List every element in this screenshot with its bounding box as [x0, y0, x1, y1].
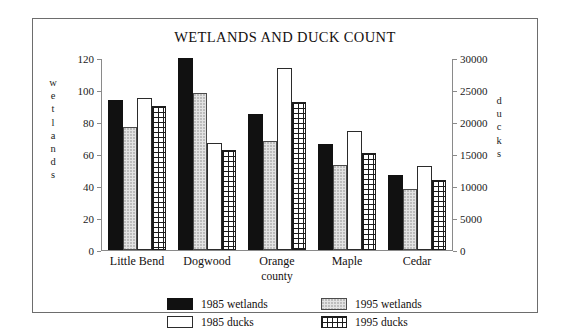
- axis-tick: [97, 219, 101, 220]
- bar: [152, 106, 167, 250]
- bar: [292, 102, 307, 250]
- axis-tick: [97, 251, 101, 252]
- axis-tick-label: 120: [78, 54, 95, 65]
- axis-caption-letter: l: [45, 116, 61, 129]
- legend-swatch: [167, 298, 193, 310]
- bar: [222, 150, 237, 250]
- axis-tick: [453, 155, 457, 156]
- axis-caption-letter: d: [45, 155, 61, 168]
- axis-tick-label: 0: [460, 246, 466, 257]
- category-label: Dogwood: [183, 254, 230, 269]
- axis-tick-label: 10000: [460, 182, 488, 193]
- category-label: Orange: [259, 254, 294, 269]
- axis-tick-label: 100: [78, 86, 95, 97]
- axis-tick: [97, 155, 101, 156]
- axis-tick: [453, 187, 457, 188]
- right-axis-caption: ducks: [491, 94, 507, 160]
- baseline-axis: [101, 250, 453, 251]
- axis-tick: [453, 123, 457, 124]
- axis-tick-label: 15000: [460, 150, 488, 161]
- bar: [403, 189, 418, 250]
- bar-group: [178, 59, 236, 250]
- axis-caption-letter: a: [45, 129, 61, 142]
- bar: [137, 98, 152, 250]
- legend-swatch: [321, 298, 347, 310]
- bar: [178, 58, 193, 250]
- axis-tick-label: 80: [83, 118, 94, 129]
- axis-tick: [453, 91, 457, 92]
- bar-group: [248, 59, 306, 250]
- axis-caption-letter: s: [491, 147, 507, 160]
- axis-tick-label: 20000: [460, 118, 488, 129]
- axis-tick-label: 25000: [460, 86, 488, 97]
- axis-tick-label: 60: [83, 150, 94, 161]
- axis-tick: [97, 59, 101, 60]
- axis-tick: [97, 187, 101, 188]
- bar: [333, 165, 348, 250]
- bar: [432, 180, 447, 250]
- bar: [207, 143, 222, 250]
- bar: [347, 131, 362, 250]
- bar: [277, 68, 292, 250]
- bar: [123, 127, 138, 250]
- axis-caption-letter: k: [491, 134, 507, 147]
- legend-label: 1995 wetlands: [355, 298, 467, 310]
- axis-tick: [97, 123, 101, 124]
- bar-group: [108, 59, 166, 250]
- bar-groups: [102, 59, 452, 250]
- axis-caption-letter: s: [45, 168, 61, 181]
- axis-tick-label: 40: [83, 182, 94, 193]
- bar-group: [388, 59, 446, 250]
- axis-tick-label: 30000: [460, 54, 488, 65]
- axis-caption-letter: d: [491, 94, 507, 107]
- left-axis-caption: wetlands: [45, 76, 61, 182]
- axis-tick: [453, 251, 457, 252]
- bar: [318, 144, 333, 250]
- axis-tick: [97, 91, 101, 92]
- chart-frame: WETLANDS AND DUCK COUNT wetlands ducks 0…: [32, 18, 538, 313]
- axis-tick: [453, 219, 457, 220]
- axis-caption-letter: u: [491, 107, 507, 120]
- bar: [263, 141, 278, 250]
- axis-caption-letter: t: [45, 102, 61, 115]
- legend-swatch: [321, 316, 347, 328]
- legend-swatch: [167, 316, 193, 328]
- legend-label: 1985 wetlands: [201, 298, 313, 310]
- axis-caption-letter: n: [45, 142, 61, 155]
- axis-tick: [453, 59, 457, 60]
- x-axis-title: county: [101, 270, 453, 282]
- plot-area: 020406080100120 050001000015000200002500…: [101, 59, 453, 251]
- bar: [388, 175, 403, 250]
- chart-legend: 1985 wetlands1995 wetlands1985 ducks1995…: [167, 295, 467, 331]
- axis-caption-letter: e: [45, 89, 61, 102]
- bar: [108, 100, 123, 250]
- category-label: Cedar: [403, 254, 432, 269]
- axis-tick-label: 20: [83, 214, 94, 225]
- axis-caption-letter: c: [491, 120, 507, 133]
- category-labels: Little BendDogwoodOrangeMapleCedar: [101, 254, 453, 270]
- chart-title: WETLANDS AND DUCK COUNT: [33, 29, 537, 46]
- axis-caption-letter: w: [45, 76, 61, 89]
- bar: [417, 166, 432, 250]
- bar: [248, 114, 263, 250]
- axis-tick-label: 5000: [460, 214, 482, 225]
- category-label: Little Bend: [110, 254, 164, 269]
- bar: [362, 153, 377, 250]
- bar-group: [318, 59, 376, 250]
- category-label: Maple: [332, 254, 363, 269]
- axis-tick-label: 0: [89, 246, 95, 257]
- legend-label: 1995 ducks: [355, 316, 467, 328]
- bar: [193, 93, 208, 250]
- legend-label: 1985 ducks: [201, 316, 313, 328]
